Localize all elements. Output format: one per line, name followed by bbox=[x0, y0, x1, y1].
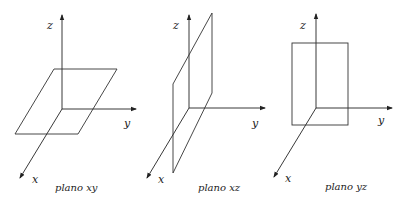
y-axis-label: y bbox=[123, 117, 131, 130]
z-axis-label: z bbox=[172, 19, 179, 32]
diagram-plano-xy: z y x plano xy bbox=[15, 15, 136, 193]
caption: plano xz bbox=[198, 182, 241, 193]
x-axis bbox=[20, 109, 62, 178]
diagram-plano-xz: z y x plano xz bbox=[147, 13, 265, 193]
z-axis-label: z bbox=[46, 19, 53, 32]
y-axis-label: y bbox=[377, 114, 385, 127]
y-axis-label: y bbox=[251, 117, 259, 130]
xz-plane bbox=[173, 13, 212, 173]
x-axis-label: x bbox=[158, 173, 165, 186]
z-axis-label: z bbox=[299, 19, 306, 32]
caption: plano xy bbox=[55, 182, 98, 193]
yz-plane bbox=[292, 43, 348, 125]
diagram-plano-yz: z y x plano yz bbox=[274, 14, 392, 192]
coordinate-planes-figure: z y x plano xy z y x plano xz z y x plan… bbox=[0, 0, 400, 206]
x-axis bbox=[274, 108, 316, 177]
x-axis-label: x bbox=[285, 172, 292, 185]
caption: plano yz bbox=[325, 181, 368, 192]
x-axis-label: x bbox=[32, 173, 39, 186]
x-axis bbox=[147, 108, 189, 178]
xy-plane bbox=[15, 69, 117, 134]
